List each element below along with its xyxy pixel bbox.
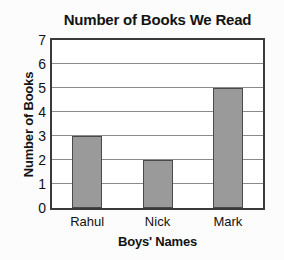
y-tick-label: 1 [30, 177, 46, 191]
bar-nick [143, 160, 173, 208]
y-axis-tick-labels: 76543210 [26, 0, 46, 260]
y-tick-label: 7 [30, 33, 46, 47]
y-tick-label: 2 [30, 153, 46, 167]
y-tick-label: 0 [30, 201, 46, 215]
y-tick-label: 5 [30, 81, 46, 95]
bar-chart-figure: Number of Books We Read Number of Books … [0, 0, 284, 260]
plot-area [50, 38, 265, 210]
x-tick-label: Mark [188, 214, 268, 229]
x-tick-label: Nick [118, 214, 198, 229]
chart-title: Number of Books We Read [50, 11, 265, 29]
y-tick-label: 6 [30, 57, 46, 71]
x-tick-label: Rahul [47, 214, 127, 229]
x-axis-title: Boys' Names [50, 234, 265, 249]
bar-rahul [72, 136, 102, 208]
bar-mark [213, 88, 243, 208]
y-tick-label: 4 [30, 105, 46, 119]
y-tick-label: 3 [30, 129, 46, 143]
gridline-6 [52, 63, 263, 64]
